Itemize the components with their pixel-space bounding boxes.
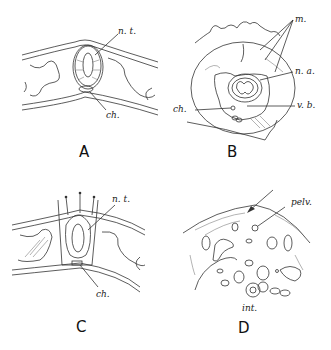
label-notochord: ch. xyxy=(173,104,187,114)
panel-letter-b: B xyxy=(227,143,237,161)
label-muscle: m. xyxy=(295,14,306,24)
label-neural-tube: n. t. xyxy=(118,26,136,36)
label-notochord: ch. xyxy=(106,110,120,120)
panel-a: n. t. ch. A xyxy=(0,0,165,175)
panel-d: pelv. int. D xyxy=(165,175,330,350)
vertebra-cross-section-drawing xyxy=(165,0,330,175)
label-vertebral-body: v. b. xyxy=(297,100,315,110)
label-notochord: ch. xyxy=(96,289,110,299)
label-neural-arch: n. a. xyxy=(295,66,315,76)
label-intestine: int. xyxy=(242,303,257,313)
panel-b: m. n. a. ch. v. b. B xyxy=(165,0,330,175)
label-pelvis: pelv. xyxy=(291,197,312,207)
panel-c: n. t. ch. C xyxy=(0,175,165,350)
label-neural-tube: n. t. xyxy=(112,194,130,204)
panel-letter-c: C xyxy=(76,318,86,336)
panel-letter-a: A xyxy=(79,143,89,161)
panel-letter-d: D xyxy=(238,319,250,337)
